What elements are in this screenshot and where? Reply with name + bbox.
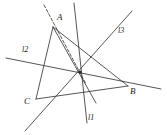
line-label-l3: l3 (118, 27, 124, 35)
line-label-l1: l1 (88, 114, 94, 122)
vertex-label-A: A (57, 13, 63, 22)
point-layer (78, 70, 81, 73)
segment-layer (6, 3, 161, 131)
figure-canvas (0, 0, 167, 135)
vertex-label-C: C (24, 97, 30, 106)
line-l3 (25, 11, 132, 131)
side-AC (36, 27, 53, 99)
cevian-A-to-CB (53, 27, 96, 103)
geometry-figure: A B C l1 l2 l3 (0, 0, 167, 135)
side-CB (36, 86, 128, 99)
concurrency-point (78, 70, 81, 73)
line-l1 (74, 3, 87, 123)
line-l2 (6, 58, 161, 89)
line-label-l2: l2 (22, 46, 28, 54)
vertex-label-B: B (130, 87, 136, 96)
side-AB (53, 27, 128, 86)
